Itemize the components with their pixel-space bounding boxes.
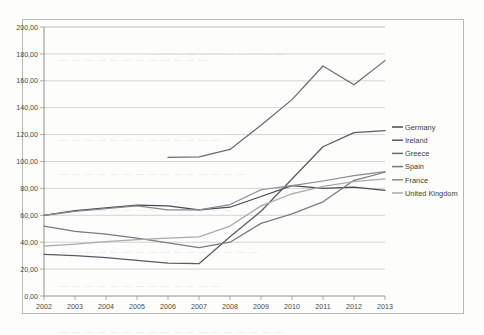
y-axis-label: 40,00 (20, 239, 38, 247)
y-axis-label: 200,00 (16, 24, 38, 32)
y-axis-label: 20,00 (20, 266, 38, 274)
legend-label-france: France (405, 176, 428, 185)
y-axis-label: 120,00 (16, 131, 38, 139)
x-axis-label: 2004 (98, 303, 114, 311)
legend-label-germany: Germany (405, 123, 436, 132)
x-axis-label: 2003 (67, 303, 83, 311)
x-axis-label: 2008 (222, 303, 238, 311)
x-axis-label: 2013 (377, 303, 393, 311)
y-axis-label: 0,00 (24, 293, 38, 301)
x-axis-label: 2011 (315, 303, 330, 311)
chart-canvas: 0,0020,0040,0060,0080,00100,00120,00140,… (0, 0, 484, 335)
legend-label-united-kingdom: United Kingdom (405, 189, 458, 198)
x-axis-label: 2002 (36, 303, 52, 311)
series-line-united-kingdom (44, 179, 385, 246)
y-axis-label: 80,00 (20, 185, 38, 193)
x-axis-label: 2012 (346, 303, 362, 311)
legend-label-spain: Spain (405, 162, 424, 171)
x-axis-label: 2007 (191, 303, 207, 311)
x-axis-label: 2010 (284, 303, 300, 311)
series-line-ireland (44, 131, 385, 264)
y-axis-label: 100,00 (16, 158, 38, 166)
y-axis-label: 180,00 (16, 51, 38, 59)
y-axis-label: 60,00 (20, 212, 38, 220)
x-axis-label: 2005 (129, 303, 145, 311)
y-axis-label: 160,00 (16, 77, 38, 85)
series-line-germany (44, 186, 385, 216)
legend-label-ireland: Ireland (405, 136, 428, 145)
x-axis-label: 2009 (253, 303, 269, 311)
series-line-greece (168, 61, 385, 158)
line-chart: 0,0020,0040,0060,0080,00100,00120,00140,… (0, 0, 484, 335)
x-axis-label: 2006 (160, 303, 176, 311)
y-axis-label: 140,00 (16, 104, 38, 112)
legend-label-greece: Greece (405, 149, 429, 158)
